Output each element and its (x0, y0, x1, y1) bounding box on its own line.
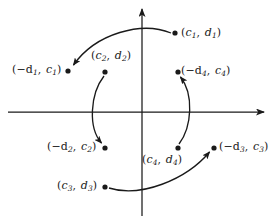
point-label-nd4c4: (−d4, c4) (181, 65, 231, 77)
point-label-c4d4: (c4, d4) (142, 154, 182, 166)
point-label-nd1c1: (−d1, c1) (12, 64, 62, 76)
point-label-nd2c2: (−d2, c2) (47, 141, 97, 153)
point-label-c2d2: (c2, d2) (91, 50, 131, 62)
diagram-canvas (0, 0, 274, 220)
point-dot-c3d3 (102, 184, 107, 189)
point-label-c3d3: (c3, d3) (57, 180, 97, 192)
point-label-c1d1: (c1, d1) (181, 27, 221, 39)
point-dot-c1d1 (172, 30, 177, 35)
point-dot-c2d2 (102, 69, 107, 74)
point-dot-nd2c2 (102, 145, 107, 150)
point-label-nd3c3: (−d3, c3) (219, 141, 269, 153)
point-dot-nd1c1 (65, 68, 70, 73)
rotation-diagram: (c1, d1) (−d1, c1) (c2, d2) (−d2, c2) (c… (0, 0, 274, 220)
rotation-arrow-4 (179, 77, 190, 144)
rotation-arrow-2 (92, 76, 104, 143)
point-dot-nd3c3 (211, 145, 216, 150)
point-dot-c4d4 (175, 145, 180, 150)
point-dot-nd4c4 (175, 69, 180, 74)
